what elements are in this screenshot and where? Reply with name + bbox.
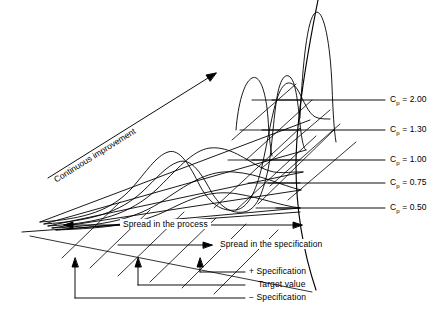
cp-label-050: Cp = 0.50 (390, 202, 427, 214)
spread-process-label: Spread in the process (120, 219, 211, 229)
legend-marker-plus: + (249, 266, 254, 276)
legend-text-plus: Specification (257, 266, 307, 276)
cp-label-130: Cp = 1.30 (390, 124, 427, 136)
diagram-canvas: Continuous improvement Cp = 2.00 Cp = 1.… (0, 0, 433, 314)
spread-specification-label: Spread in the specification (218, 239, 324, 249)
legend-marker-minus: − (249, 292, 254, 302)
baseline-cp-100 (48, 172, 303, 226)
spread-specification-arrow (118, 242, 212, 248)
legend-text-minus: Specification (257, 292, 307, 302)
cp-label-200: Cp = 2.00 (390, 94, 427, 106)
diagram-vector-layer (0, 0, 433, 314)
bell-curve-cp-130 (44, 76, 306, 224)
cp-label-075: Cp = 0.75 (390, 177, 427, 189)
leader-plus-spec-head (197, 258, 203, 267)
legend-item-target-value: Target value (258, 279, 306, 289)
leader-target-head (135, 258, 141, 267)
interior-peak-right (300, 12, 336, 142)
legend-leader-group (72, 258, 245, 298)
legend-text-target: Target value (258, 279, 306, 289)
leader-minus-spec-head (72, 258, 78, 267)
isometric-lattice-group (214, 84, 356, 210)
legend-item-minus-specification: − Specification (249, 292, 306, 302)
legend-item-plus-specification: + Specification (249, 266, 306, 276)
cp-label-100: Cp = 1.00 (390, 154, 427, 166)
bell-curve-cp-200 (40, 83, 330, 222)
